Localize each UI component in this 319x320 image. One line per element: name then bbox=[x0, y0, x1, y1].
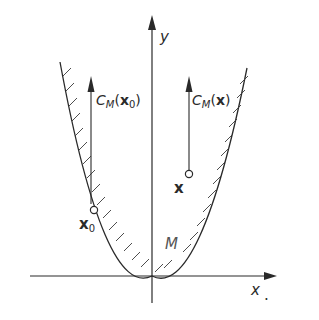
point-x-text: x bbox=[174, 179, 184, 197]
y-axis-label: y bbox=[160, 30, 169, 45]
point-x0-marker bbox=[90, 206, 97, 213]
cone-arg-text: x bbox=[120, 92, 129, 108]
arrow-up-icon bbox=[88, 76, 95, 92]
point-x0-text: x bbox=[79, 215, 89, 233]
cone-arg-text: x bbox=[216, 92, 225, 108]
cone-c-text: C bbox=[96, 92, 106, 108]
arrow-up-icon bbox=[186, 76, 193, 92]
curve-label-text: M bbox=[165, 235, 178, 253]
cone-c-text: C bbox=[192, 92, 202, 108]
cone-label-x0: CM(x0) bbox=[96, 93, 141, 110]
y-label-text: y bbox=[160, 28, 169, 46]
x-axis-arrow-icon bbox=[264, 272, 277, 280]
diagram-canvas bbox=[0, 0, 319, 320]
cone-arrow-x0 bbox=[88, 76, 95, 204]
y-axis-arrow-icon bbox=[148, 15, 156, 30]
cone-arrow-x bbox=[186, 76, 193, 170]
cone-label-x: CM(x) bbox=[192, 93, 230, 110]
x-axis-label: x. bbox=[251, 283, 269, 298]
x-label-text: x bbox=[251, 281, 260, 299]
diagram-figure: y x. M CM(x0) CM(x) x x0 bbox=[0, 0, 319, 320]
curve-label-m: M bbox=[165, 237, 178, 252]
point-x0-sub-text: 0 bbox=[89, 223, 95, 234]
point-label-x: x bbox=[174, 181, 184, 196]
point-x-marker bbox=[185, 170, 192, 177]
y-axis bbox=[148, 15, 156, 303]
point-label-x0: x0 bbox=[79, 217, 95, 234]
x-label-suffix: . bbox=[264, 286, 269, 304]
